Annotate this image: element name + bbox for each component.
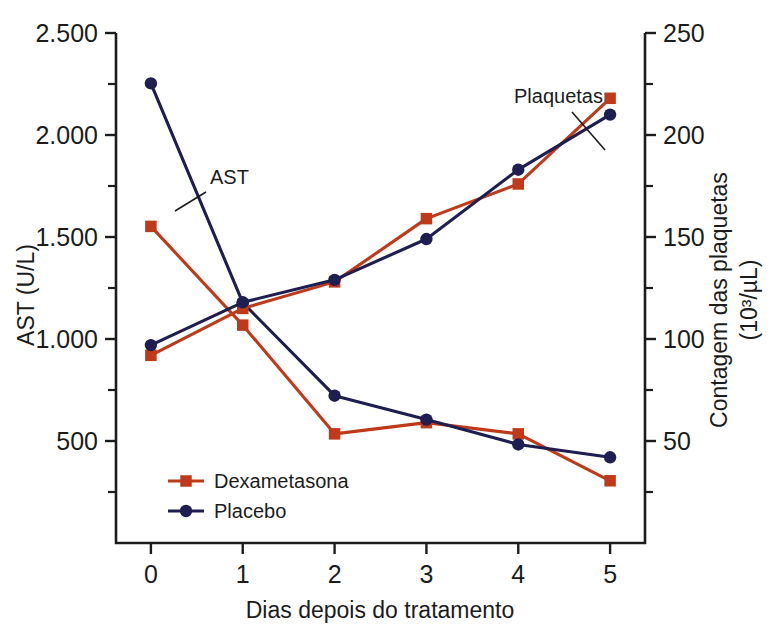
y-axis-title-right-line2: (10³/µL) (736, 260, 762, 341)
plot-frame (116, 33, 645, 543)
x-axis-tick-label: 2 (328, 560, 342, 588)
data-point-circle (328, 390, 340, 402)
data-point-square (329, 428, 341, 440)
data-point-circle (145, 339, 157, 351)
data-point-square (513, 428, 525, 440)
x-axis-title: Dias depois do tratamento (246, 597, 515, 623)
data-point-square (145, 221, 157, 233)
right-axis-tick-label: 100 (663, 325, 705, 353)
data-point-circle (512, 438, 524, 450)
data-point-circle (604, 108, 616, 120)
data-point-square (421, 213, 433, 225)
left-axis-tick-label: 2.000 (35, 121, 98, 149)
right-axis-tick-label: 150 (663, 223, 705, 251)
data-point-circle (420, 233, 432, 245)
series-line (151, 115, 610, 346)
chart-figure: 5001.0001.5002.0002.50050100150200250012… (0, 0, 779, 633)
data-point-square (604, 475, 616, 487)
data-series (145, 77, 617, 486)
data-point-circle (328, 274, 340, 286)
series-placebo-ast (145, 77, 617, 463)
right-axis-tick-label: 50 (663, 427, 691, 455)
data-point-circle (512, 163, 524, 175)
data-point-square (604, 93, 616, 105)
data-point-circle (420, 413, 432, 425)
y-axis-title-right-line1: Contagem das plaquetas (706, 172, 732, 428)
x-axis-tick-label: 4 (511, 560, 525, 588)
ast-plaquetas-dual-axis-chart: 5001.0001.5002.0002.50050100150200250012… (0, 0, 779, 633)
y-axis-title-left: AST (U/L) (13, 244, 39, 346)
data-point-square (180, 475, 192, 487)
left-axis-tick-label: 500 (56, 427, 98, 455)
series-line (151, 83, 610, 457)
data-point-circle (237, 296, 249, 308)
right-axis-tick-label: 250 (663, 19, 705, 47)
series-placebo-plaquetas (145, 108, 617, 351)
data-point-square (237, 319, 249, 331)
annotation-label-plaquetas: Plaquetas (514, 85, 603, 107)
data-point-circle (180, 505, 192, 517)
x-axis-tick-label: 0 (144, 560, 158, 588)
legend[interactable]: DexametasonaPlacebo (168, 470, 349, 522)
left-axis-tick-label: 2.500 (35, 19, 98, 47)
annotations: ASTPlaquetas (175, 85, 605, 211)
legend-label: Dexametasona (214, 470, 349, 492)
left-axis-tick-label: 1.500 (35, 223, 98, 251)
legend-item-dexametasona[interactable]: Dexametasona (168, 470, 349, 492)
x-axis-tick-label: 5 (603, 560, 617, 588)
annotation-label-ast: AST (210, 166, 249, 188)
data-point-circle (145, 77, 157, 89)
series-line (151, 98, 610, 355)
left-axis-tick-label: 1.000 (35, 325, 98, 353)
right-axis-tick-label: 200 (663, 121, 705, 149)
series-dexametasona-plaquetas (145, 93, 616, 362)
x-axis-tick-label: 3 (419, 560, 433, 588)
data-point-circle (604, 451, 616, 463)
legend-label: Placebo (214, 500, 286, 522)
x-axis-tick-label: 1 (236, 560, 250, 588)
series-line (151, 226, 610, 480)
legend-item-placebo[interactable]: Placebo (168, 500, 286, 522)
data-point-square (513, 178, 525, 190)
